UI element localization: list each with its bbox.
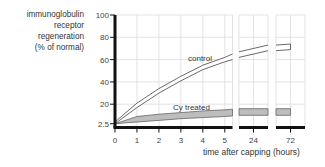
y-tick-label: 100 bbox=[96, 11, 110, 20]
x-tick-label: 3 bbox=[179, 136, 184, 145]
x-tick-label: 1 bbox=[135, 136, 140, 145]
chart-svg: 2.5204060801000123452472controlCy treate… bbox=[0, 0, 325, 167]
series-label-cy-treated: Cy treated bbox=[173, 103, 210, 112]
x-tick-label: 72 bbox=[286, 136, 295, 145]
series-label-control: control bbox=[188, 54, 212, 63]
y-tick-label: 40 bbox=[100, 78, 109, 87]
x-tick-label: 24 bbox=[249, 136, 258, 145]
series-band-cy-treated bbox=[239, 109, 268, 116]
y-tick-label: 2.5 bbox=[98, 120, 110, 129]
y-tick-label: 80 bbox=[100, 33, 109, 42]
x-axis-label: time after capping (hours) bbox=[203, 147, 300, 157]
x-tick-label: 2 bbox=[157, 136, 162, 145]
x-tick-label: 4 bbox=[201, 136, 206, 145]
y-tick-label: 60 bbox=[100, 56, 109, 65]
y-tick-label: 20 bbox=[100, 100, 109, 109]
x-tick-label: 0 bbox=[113, 136, 118, 145]
x-tick-label: 5 bbox=[223, 136, 228, 145]
series-band-cy-treated bbox=[276, 109, 291, 116]
